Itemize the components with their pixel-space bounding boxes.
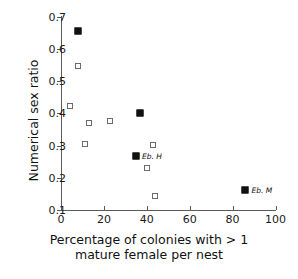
y-tick-label: 0.3: [49, 139, 67, 152]
x-axis-line: [61, 210, 276, 211]
y-tick-label: 0.6: [49, 42, 67, 55]
y-tick-label: 0.5: [49, 75, 67, 88]
data-point-open: [67, 103, 73, 109]
data-point-filled: [137, 110, 144, 117]
x-axis-label-line-2: mature female per nest: [0, 247, 298, 262]
x-tick-mark: [147, 206, 148, 210]
x-tick-label: 40: [140, 213, 154, 226]
x-tick-mark: [276, 206, 277, 210]
data-point-open: [107, 118, 113, 124]
x-tick-label: 100: [265, 213, 286, 226]
y-tick-label: 0.2: [49, 171, 67, 184]
data-point-filled: [75, 28, 82, 35]
data-point-open: [150, 142, 156, 148]
x-tick-label: 80: [226, 213, 240, 226]
data-point-open: [152, 193, 158, 199]
x-axis-label: Percentage of colonies with > 1 mature f…: [0, 232, 298, 263]
y-tick-label: 0.7: [49, 10, 67, 23]
x-tick-label: 60: [183, 213, 197, 226]
data-point-filled: [242, 187, 249, 194]
data-point-annotation: Eb. H: [142, 152, 162, 161]
data-point-open: [82, 141, 88, 147]
x-tick-mark: [104, 206, 105, 210]
y-tick-label: 0.1: [49, 204, 67, 217]
x-axis-label-line-1: Percentage of colonies with > 1: [0, 232, 298, 247]
x-tick-mark: [190, 206, 191, 210]
y-tick-label: 0.4: [49, 107, 67, 120]
x-tick-label: 20: [97, 213, 111, 226]
plot-area: 020406080100 0.10.20.30.40.50.60.7 Eb. H…: [0, 0, 298, 279]
scatter-chart-figure: 020406080100 0.10.20.30.40.50.60.7 Eb. H…: [0, 0, 298, 279]
x-tick-mark: [233, 206, 234, 210]
data-point-filled: [133, 153, 140, 160]
data-point-open: [144, 165, 150, 171]
data-point-annotation: Eb. M: [251, 186, 272, 195]
y-axis-label: Numerical sex ratio: [26, 26, 41, 216]
data-point-open: [86, 120, 92, 126]
data-point-open: [75, 63, 81, 69]
